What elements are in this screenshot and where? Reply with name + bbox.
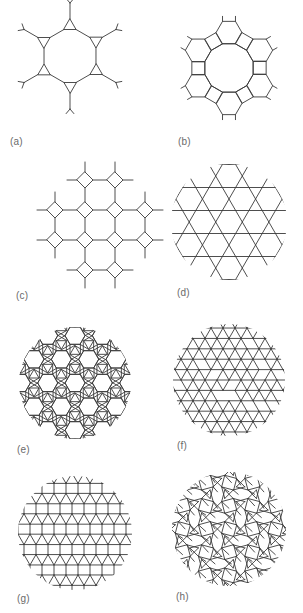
kagome-lines-diagram [151,160,303,310]
panel-label-h: (h) [176,591,189,602]
panel-label-e: (e) [17,444,30,455]
panel-g: (g) [0,455,151,613]
panel-b: (b) [151,0,303,155]
panel-label-c: (c) [16,290,28,301]
triangle-ring-diagram [0,0,151,155]
diamond-octagon-diagram [0,160,151,310]
rhombitrihexagonal-diagram [0,305,151,460]
panel-label-g: (g) [17,593,30,604]
square-triangle-random-diagram [151,455,303,613]
panel-h: (h) [151,455,303,613]
panel-c: (c) [0,160,151,310]
panel-label-a: (a) [10,136,23,147]
triangle-network-diagram [151,305,303,460]
panel-f: (f) [151,305,303,460]
panel-a: (a) [0,0,151,155]
panel-e: (e) [0,305,151,460]
panel-label-f: (f) [177,440,187,451]
elongated-triangular-diagram [0,455,151,613]
panel-label-d: (d) [177,287,190,298]
panel-d: (d) [151,160,303,310]
panel-label-b: (b) [178,136,191,147]
hex-square-ring-diagram [151,0,303,155]
